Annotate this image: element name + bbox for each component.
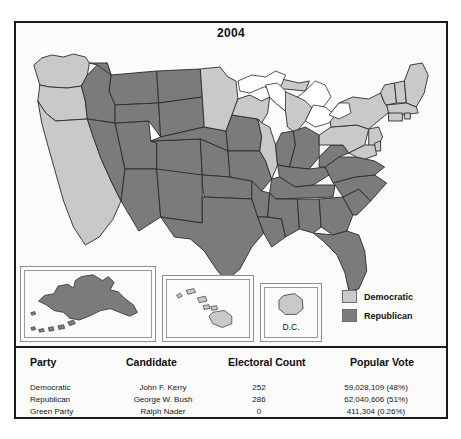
state-AZ [121, 169, 161, 231]
cell-party: Republican [30, 393, 116, 405]
cell-candidate: Ralph Nader [116, 405, 224, 417]
cell-popular-vote: 59,028,109 (48%) [328, 381, 430, 393]
results-table-area: Party Candidate Electoral Count Popular … [16, 348, 446, 417]
header-electoral-count: Electoral Count [224, 356, 328, 381]
header-party: Party [30, 356, 116, 381]
cell-popular-vote: 411,304 (0.26%) [328, 405, 430, 417]
dc-inset: D.C. [260, 283, 322, 342]
state-WA [34, 54, 89, 88]
legend-label-democratic: Democratic [364, 292, 413, 302]
map-legend: Democratic Republican [342, 290, 442, 328]
state-FL [313, 231, 367, 291]
legend-item-republican: Republican [342, 309, 442, 322]
cell-electoral-count: 286 [224, 393, 328, 405]
alaska-inset [20, 266, 156, 342]
cell-candidate: John F. Kerry [116, 381, 224, 393]
table-row: Green Party Ralph Nader 0 411,304 (0.26%… [30, 405, 430, 417]
table-header-row: Party Candidate Electoral Count Popular … [30, 356, 430, 381]
state-AL [297, 199, 321, 233]
state-IA [226, 115, 262, 151]
hawaii-svg [167, 280, 249, 337]
state-HI [177, 289, 232, 328]
state-AK [39, 275, 138, 320]
cell-party: Green Party [30, 405, 116, 417]
alaska-inset-inner [24, 270, 152, 338]
state-RI [404, 113, 410, 119]
cell-electoral-count: 252 [224, 381, 328, 393]
hawaii-inset [162, 275, 254, 342]
dc-label: D.C. [265, 322, 317, 332]
table-row: Democratic John F. Kerry 252 59,028,109 … [30, 381, 430, 393]
header-candidate: Candidate [116, 356, 224, 381]
cell-popular-vote: 62,040,606 (51%) [328, 393, 430, 405]
election-map-figure: 2004 [14, 21, 448, 419]
table-row: Republican George W. Bush 286 62,040,606… [30, 393, 430, 405]
dc-inset-inner: D.C. [264, 287, 318, 338]
cell-electoral-count: 0 [224, 405, 328, 417]
header-popular-vote: Popular Vote [328, 356, 430, 381]
state-ME [404, 63, 428, 107]
legend-label-republican: Republican [364, 311, 413, 321]
state-NM [157, 169, 203, 223]
alaska-svg [25, 271, 151, 337]
district-DC [279, 294, 303, 315]
results-table: Party Candidate Electoral Count Popular … [30, 356, 430, 417]
page-title: 2004 [16, 26, 446, 40]
hawaii-inset-inner [166, 279, 250, 338]
legend-item-democratic: Democratic [342, 290, 442, 303]
cell-party: Democratic [30, 381, 116, 393]
republican-swatch [342, 309, 357, 322]
cell-candidate: George W. Bush [116, 393, 224, 405]
democratic-swatch [342, 290, 357, 303]
state-CT [389, 113, 403, 121]
